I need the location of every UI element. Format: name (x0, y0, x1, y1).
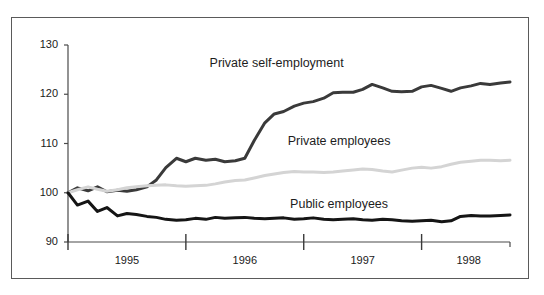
x-axis-tick-label: 1996 (215, 254, 275, 266)
series-label-private-employees: Private employees (286, 134, 393, 148)
x-axis-tick-label: 1997 (333, 254, 393, 266)
x-axis-tick-label: 1998 (439, 254, 499, 266)
series-line-private-employees (68, 160, 510, 193)
x-axis-tick-label: 1995 (97, 254, 157, 266)
series-label-private-self-employment: Private self-employment (208, 56, 346, 70)
y-axis-tick-label: 130 (28, 38, 58, 50)
series-label-public-employees: Public employees (288, 197, 390, 211)
y-axis-tick-label: 110 (28, 137, 58, 149)
y-axis-tick-label: 120 (28, 87, 58, 99)
y-axis-tick-label: 100 (28, 186, 58, 198)
chart-plot-area (0, 0, 544, 295)
y-axis-tick-label: 90 (28, 235, 58, 247)
chart-figure: 90100110120130 1995199619971998 Private … (0, 0, 544, 295)
